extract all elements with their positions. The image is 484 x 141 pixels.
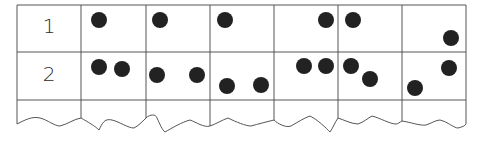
- dot-row-1: [91, 12, 107, 28]
- dot-row-2: [114, 61, 130, 77]
- dot-row-1: [345, 12, 361, 28]
- dot-row-1: [443, 30, 459, 46]
- dot-row-2: [189, 67, 205, 83]
- dot-row-2: [219, 78, 235, 94]
- dot-table-diagram: 1 2: [0, 0, 484, 141]
- dot-row-2: [343, 58, 359, 74]
- dot-row-2: [441, 60, 457, 76]
- dot-row-2: [362, 71, 378, 87]
- dot-row-2: [407, 80, 423, 96]
- dot-row-2: [149, 67, 165, 83]
- dot-row-2: [296, 58, 312, 74]
- torn-bottom-edge: [17, 115, 466, 132]
- row-label-2: 2: [17, 62, 81, 86]
- dot-row-1: [152, 12, 168, 28]
- dot-row-1: [318, 12, 334, 28]
- grid-lines: [17, 5, 466, 126]
- dot-row-2: [91, 59, 107, 75]
- dot-row-2: [253, 77, 269, 93]
- dot-row-2: [318, 58, 334, 74]
- dot-row-1: [217, 12, 233, 28]
- row-label-1: 1: [17, 14, 81, 38]
